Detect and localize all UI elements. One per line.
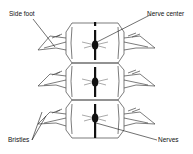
nerve-center-2 (92, 78, 98, 87)
annelid-segment-diagram: Side foot Nerve center Bristles Nerves (0, 0, 193, 154)
label-nerve-center: Nerve center (147, 11, 184, 18)
nerve-center-3 (92, 114, 98, 123)
nerve-cord (92, 22, 98, 138)
label-bristles: Bristles (8, 137, 29, 144)
segments-illustration (0, 0, 193, 154)
label-side-foot: Side foot (9, 11, 35, 18)
label-nerves: Nerves (158, 137, 179, 144)
bristles-leader (32, 112, 46, 140)
